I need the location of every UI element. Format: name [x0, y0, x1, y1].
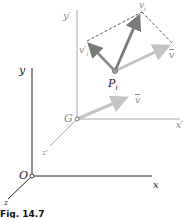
relative-velocity-label-subscript: i — [86, 50, 88, 57]
particle-point — [112, 68, 117, 73]
z-axis-label: z — [4, 199, 8, 207]
mean-velocity-vector-at-g — [77, 98, 126, 119]
origin-label: O — [19, 170, 28, 181]
centroid-point — [75, 117, 79, 121]
y-prime-axis-label: y′ — [63, 11, 71, 21]
figure-caption: Fig. 14.7 — [0, 209, 44, 218]
particle-label-subscript: i — [115, 84, 117, 92]
particle-vectors — [87, 12, 172, 74]
particle-label: Pi — [108, 78, 118, 92]
relative-velocity-vector — [89, 44, 115, 71]
z-prime-axis-label: z′ — [42, 149, 48, 157]
x-axis-label: x — [153, 180, 159, 190]
origin-point — [30, 174, 34, 178]
global-axes — [8, 68, 152, 199]
absolute-velocity-label-subscript: i — [144, 5, 146, 12]
dashed-parallelogram-right — [142, 12, 172, 43]
relative-velocity-label: v′i — [79, 46, 88, 57]
x-prime-axis-label: x′ — [176, 121, 183, 130]
mean-velocity-label-at-g: v — [135, 96, 140, 105]
mean-velocity-label-at-p: v — [169, 51, 174, 60]
absolute-velocity-label: vi — [139, 1, 146, 12]
y-axis-label: y — [19, 65, 25, 76]
centroid-label: G — [64, 113, 73, 124]
